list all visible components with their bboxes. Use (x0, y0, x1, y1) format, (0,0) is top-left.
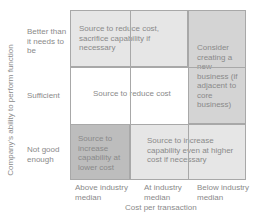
cell-bottom-left: Source to increase capability at lower c… (70, 124, 130, 180)
col-label-below-median: Below industry median (197, 183, 257, 202)
col-label-at-median: At industry median (144, 183, 194, 202)
x-axis-label: Cost per transaction (125, 203, 197, 212)
sourcing-matrix: Source to reduce cost, sacrifice capabil… (70, 10, 246, 180)
row-label-not-good-enough: Not good enough (27, 145, 71, 164)
grid-line-col-1 (130, 10, 131, 180)
cell-top-span: Source to reduce cost, sacrifice capabil… (70, 10, 188, 67)
grid-line-row-1 (70, 67, 246, 68)
grid-line-col-2 (188, 10, 189, 180)
row-label-sufficient: Sufficient (27, 91, 71, 101)
y-axis-label: Company's ability to perform function (3, 0, 17, 219)
row-label-better: Better than it needs to be (27, 27, 71, 56)
col-label-above-median: Above industry median (75, 183, 133, 202)
grid-line-row-2 (70, 124, 246, 125)
cell-middle-span: Source to reduce cost (70, 67, 188, 124)
